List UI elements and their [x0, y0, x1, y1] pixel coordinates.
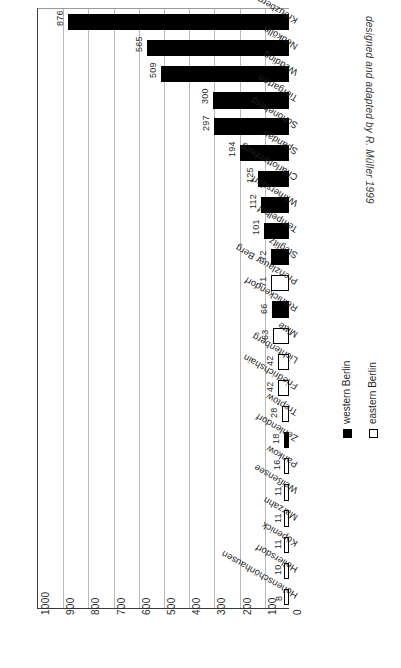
legend-swatch-eastern: [369, 429, 378, 438]
legend-entry-eastern: eastern Berlin: [368, 362, 378, 438]
bar-row: [37, 380, 289, 396]
bar-value-label: 8: [275, 596, 284, 601]
bar-row: [37, 510, 289, 526]
bar-value-label: 42: [266, 381, 275, 391]
plot-area: [37, 8, 289, 609]
legend-entry-western: western Berlin: [342, 361, 352, 438]
bar-row: [37, 537, 289, 553]
bar-row: [37, 66, 289, 82]
bar-value-label: 300: [201, 89, 210, 105]
axis-tick-label: 0: [293, 609, 303, 615]
bar-row: [37, 14, 289, 30]
credit-annotation: designed and adapted by R. Müller 1999: [364, 16, 374, 204]
axis-tick-label: 700: [117, 597, 127, 615]
bar-row: [37, 432, 289, 448]
bar-value-label: 112: [249, 194, 258, 209]
legend-swatch-western: [343, 429, 352, 438]
bar-value-label: 66: [260, 303, 269, 313]
axis-tick-label: 800: [91, 597, 101, 615]
axis-tick-label: 200: [243, 597, 253, 615]
bar-row: [37, 301, 289, 317]
bar-value-label: 297: [202, 115, 211, 131]
bar-row: [37, 40, 289, 56]
axis-tick-label: 400: [192, 597, 202, 615]
bar-value-label: 509: [149, 63, 158, 79]
axis-tick-label: 1000: [41, 592, 51, 615]
bar-row: [37, 484, 289, 500]
axis-tick-label: 900: [66, 597, 76, 615]
bar-value-label: 565: [135, 37, 144, 53]
bar-row: [37, 118, 289, 134]
bar-chart: 10009008007006005004003002001000 8765655…: [0, 0, 401, 668]
legend-label: eastern Berlin: [368, 362, 378, 424]
axis-tick-label: 300: [217, 597, 227, 615]
bar-row: [37, 406, 289, 422]
legend-label: western Berlin: [342, 361, 352, 424]
axis-tick-label: 600: [142, 597, 152, 615]
bar-value-label: 101: [252, 219, 261, 235]
bar: [68, 14, 289, 30]
axis-tick-label: 500: [167, 597, 177, 615]
bar-value-label: 876: [56, 10, 65, 26]
bar-value-label: 194: [228, 141, 237, 157]
